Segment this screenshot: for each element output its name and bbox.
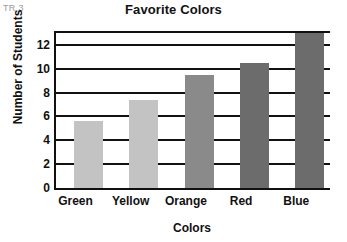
- chart-title: Favorite Colors: [0, 2, 347, 17]
- plot-area: [54, 31, 330, 190]
- x-axis-title: Colors: [54, 221, 330, 235]
- x-axis-tick-label: Orange: [158, 194, 213, 208]
- bar-blue: [295, 33, 324, 188]
- x-axis-tick-label: Green: [48, 194, 103, 208]
- y-axis-tick-label: 0: [4, 182, 50, 194]
- x-axis-tick-label: Red: [214, 194, 269, 208]
- y-axis-tick-label: 6: [4, 110, 50, 122]
- y-axis-tick-label: 2: [4, 158, 50, 170]
- x-axis-tick-label: Blue: [269, 194, 324, 208]
- bar-orange: [185, 75, 214, 188]
- bar-red: [240, 63, 269, 188]
- y-axis-tick-label: 12: [4, 39, 50, 51]
- y-axis-tick-label: 10: [4, 63, 50, 75]
- x-axis-tick-label: Yellow: [103, 194, 158, 208]
- x-axis-tick-labels: GreenYellowOrangeRedBlue: [54, 194, 330, 212]
- y-axis-tick-labels: 024681012: [0, 31, 50, 190]
- y-axis-tick-label: 8: [4, 87, 50, 99]
- y-axis-tick-label: 4: [4, 134, 50, 146]
- bars-layer: [54, 31, 330, 190]
- bar-green: [74, 121, 103, 188]
- bar-yellow: [129, 100, 158, 188]
